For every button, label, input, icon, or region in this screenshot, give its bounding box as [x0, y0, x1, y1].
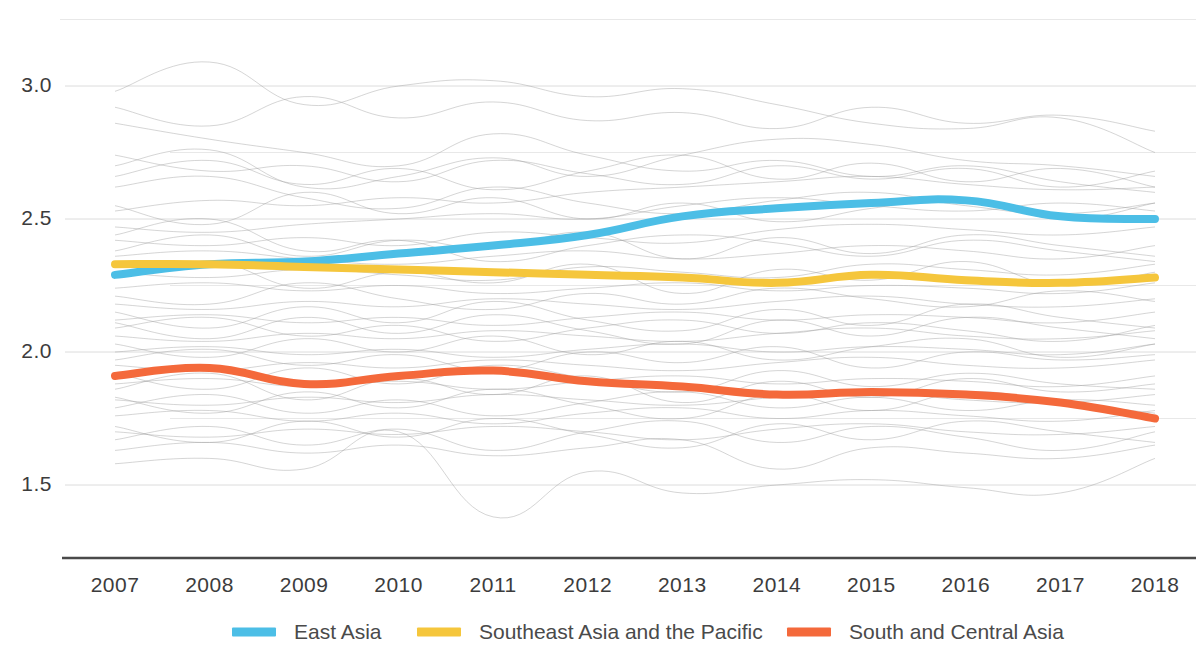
- x-axis-tick-labels: 2007200820092010201120122013201420152016…: [91, 573, 1180, 596]
- background-country-line: [115, 62, 1155, 153]
- x-tick-label: 2008: [185, 573, 234, 596]
- background-country-line: [115, 97, 1155, 132]
- legend-item[interactable]: East Asia: [232, 620, 382, 643]
- y-tick-label: 3.0: [21, 73, 52, 96]
- background-country-line: [115, 424, 1155, 440]
- line-chart: 3.02.52.01.5 200720082009201020112012201…: [0, 0, 1196, 649]
- x-tick-label: 2009: [280, 573, 329, 596]
- legend-label: Southeast Asia and the Pacific: [479, 620, 763, 643]
- background-country-line: [115, 155, 1155, 190]
- legend-swatch: [417, 628, 461, 637]
- y-tick-label: 2.5: [21, 206, 52, 229]
- x-tick-label: 2010: [374, 573, 423, 596]
- gridlines: [60, 20, 1196, 486]
- background-country-line: [115, 408, 1155, 424]
- legend-label: East Asia: [294, 620, 382, 643]
- x-tick-label: 2015: [847, 573, 896, 596]
- y-tick-label: 2.0: [21, 339, 52, 362]
- legend-item[interactable]: Southeast Asia and the Pacific: [417, 620, 763, 643]
- x-tick-label: 2013: [658, 573, 707, 596]
- x-tick-label: 2018: [1131, 573, 1180, 596]
- y-tick-label: 1.5: [21, 472, 52, 495]
- x-tick-label: 2011: [470, 573, 517, 596]
- y-axis-tick-labels: 3.02.52.01.5: [21, 73, 52, 495]
- series-line-southeast-asia-and-the-pacific: [115, 264, 1155, 283]
- x-tick-label: 2016: [942, 573, 991, 596]
- x-tick-label: 2007: [91, 573, 140, 596]
- legend-item[interactable]: South and Central Asia: [787, 620, 1064, 643]
- legend-swatch: [787, 628, 831, 637]
- background-country-line: [115, 296, 1155, 309]
- background-country-lines: [115, 62, 1155, 518]
- background-country-line: [115, 421, 1155, 451]
- x-tick-label: 2012: [563, 573, 612, 596]
- background-country-line: [115, 301, 1155, 331]
- background-country-line: [115, 344, 1155, 357]
- background-country-line: [115, 328, 1155, 341]
- x-tick-label: 2014: [752, 573, 801, 596]
- legend-swatch: [232, 628, 276, 637]
- x-tick-label: 2017: [1036, 573, 1085, 596]
- legend-label: South and Central Asia: [849, 620, 1064, 643]
- chart-legend: East AsiaSoutheast Asia and the PacificS…: [232, 620, 1064, 643]
- background-country-line: [115, 357, 1155, 370]
- chart-canvas: 3.02.52.01.5 200720082009201020112012201…: [0, 0, 1196, 649]
